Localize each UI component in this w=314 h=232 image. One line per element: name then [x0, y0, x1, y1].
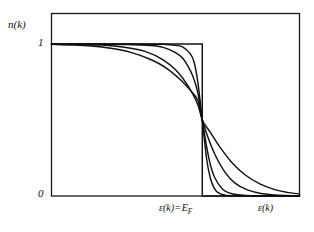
- fermi-epsilon-term: ε(k): [159, 202, 174, 213]
- y-axis-label: n(k): [8, 19, 26, 30]
- series-curve: [52, 44, 300, 196]
- x-axis-label: ε(k): [258, 203, 273, 213]
- fermi-equals-sign: =: [174, 202, 182, 213]
- plot-canvas: [0, 0, 314, 232]
- fermi-dirac-figure: n(k) 1 0 ε(k)=EF ε(k): [0, 0, 314, 232]
- fermi-energy-label: ε(k)=EF: [159, 203, 192, 215]
- series-curve: [52, 44, 300, 196]
- y-tick-label-zero: 0: [38, 188, 44, 199]
- series-curve: [52, 44, 300, 196]
- plot-frame: [52, 14, 300, 197]
- y-tick-label-one: 1: [38, 37, 44, 48]
- series-curve: [52, 44, 300, 194]
- curve-group: [52, 44, 300, 196]
- fermi-energy-subscript: F: [188, 207, 193, 216]
- series-curve: [52, 44, 300, 196]
